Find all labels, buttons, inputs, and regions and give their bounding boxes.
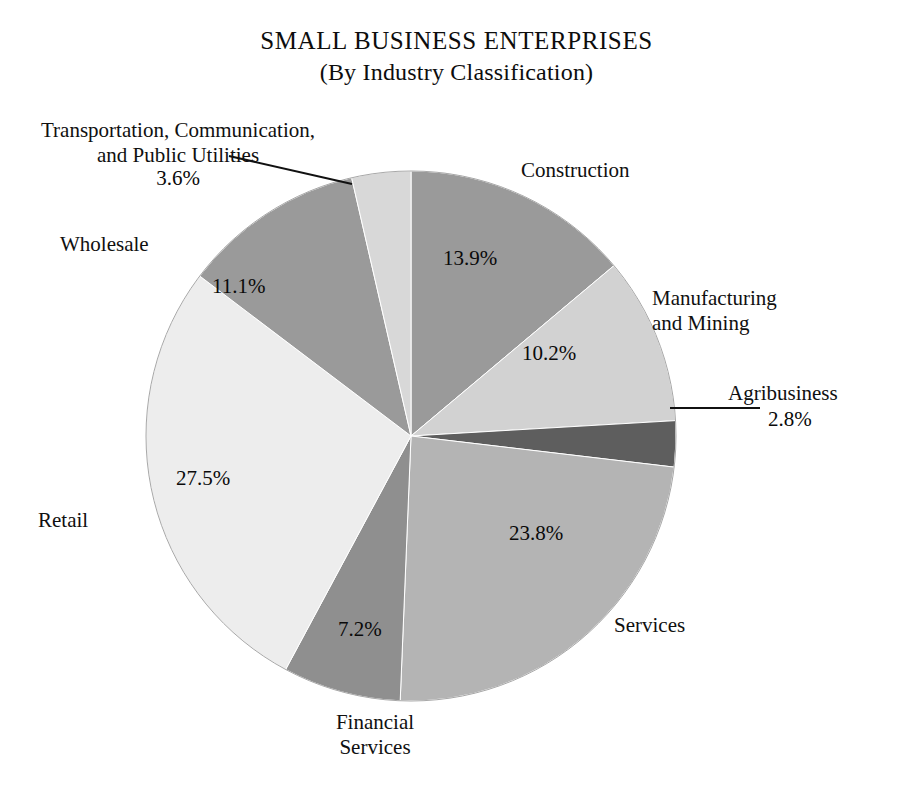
- slice-percent-construction: 13.9%: [443, 246, 553, 271]
- slice-percent-services: 23.8%: [509, 521, 619, 546]
- chart-page: SMALL BUSINESS ENTERPRISES (By Industry …: [0, 0, 913, 796]
- slice-percent-financial-services: 7.2%: [338, 617, 448, 642]
- slice-percent-manufacturing-and-mining: 10.2%: [522, 341, 632, 366]
- slice-label-wholesale: Wholesale: [60, 232, 220, 257]
- slice-label-manufacturing-and-mining: Manufacturing and Mining: [652, 286, 872, 336]
- slice-percent-agribusiness: 2.8%: [768, 407, 878, 432]
- slice-label-transportation: Transportation, Communication, and Publi…: [28, 118, 328, 168]
- slice-percent-wholesale: 11.1%: [212, 274, 322, 299]
- slice-percent-retail: 27.5%: [176, 466, 296, 491]
- slice-label-construction: Construction: [521, 158, 731, 183]
- slice-label-financial-services: Financial Services: [290, 710, 460, 760]
- slice-label-services: Services: [614, 613, 754, 638]
- slice-percent-transportation: 3.6%: [28, 166, 328, 191]
- slice-label-retail: Retail: [38, 508, 168, 533]
- pie-slice-services[interactable]: [400, 436, 674, 701]
- slice-label-agribusiness: Agribusiness: [728, 381, 898, 406]
